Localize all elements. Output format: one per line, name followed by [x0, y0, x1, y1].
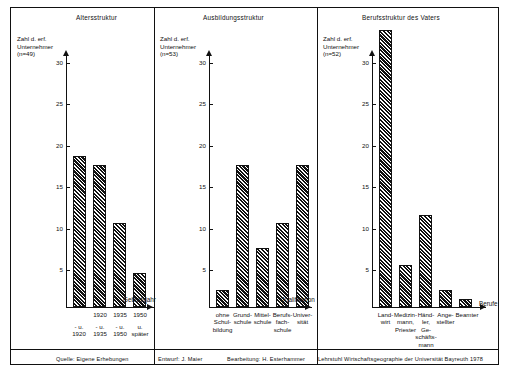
bar-p2-1	[236, 165, 249, 307]
panel-1-tick-20	[67, 146, 70, 147]
panel-1-y-caption-l3: (n=49)	[17, 50, 53, 58]
panel-3-ticklabel-5: 5	[351, 266, 369, 273]
panel-1-y-caption: Zahl d. erf. Unternehmer (n=49)	[17, 35, 53, 58]
panel-2-title: Ausbildungsstruktur	[203, 14, 264, 21]
footer-divider	[11, 349, 498, 350]
footer-institute: Lehrstuhl Wirtschaftsgeographie der Univ…	[318, 356, 483, 362]
bar-p1-1	[93, 165, 106, 307]
bar-p1-0	[73, 156, 86, 307]
panel-2-xlabel-4: Univer- sität	[290, 311, 315, 326]
bar-p3-3	[439, 290, 452, 307]
panel-1-ticklabel-20: 20	[45, 142, 63, 149]
panel-2-ticklabel-15: 15	[188, 183, 206, 190]
panel-3-y-caption-l3: (n=52)	[323, 50, 359, 58]
panel-1-title: Altersstruktur	[76, 14, 117, 21]
panel-2-tick-20	[210, 146, 213, 147]
panel-3-tick-10	[373, 229, 376, 230]
bar-p3-2	[419, 215, 432, 307]
panel-3-xlabel-4: Beamter	[453, 311, 481, 318]
panel-1-tick-5	[67, 270, 70, 271]
panel-2-ticklabel-20: 20	[188, 142, 206, 149]
bar-p3-0	[379, 30, 392, 307]
panel-1-ticklabel-10: 10	[45, 225, 63, 232]
panel-3-ticklabel-10: 10	[351, 225, 369, 232]
panel-berufsstruktur: Berufsstruktur des Vaters Zahl d. erf. U…	[317, 8, 500, 364]
panel-2-tick-5	[210, 270, 213, 271]
bar-p2-3	[276, 223, 289, 307]
panel-2-y-caption: Zahl d. erf. Unternehmer (n=53)	[160, 35, 196, 58]
panel-3-title: Berufsstruktur des Vaters	[362, 14, 440, 21]
panel-2-x-axis-arrow	[305, 304, 311, 310]
panel-3-ticklabel-20: 20	[351, 142, 369, 149]
footer-source: Quelle: Eigene Erhebungen	[56, 356, 128, 362]
panel-2-ticklabel-10: 10	[188, 225, 206, 232]
panel-2-x-axis-name: Qualifikation	[280, 296, 315, 303]
panel-1-tick-15	[67, 187, 70, 188]
panel-2-x-axis	[209, 307, 312, 308]
bar-p1-2	[113, 223, 126, 307]
panel-altersstruktur: Altersstruktur Zahl d. erf. Unternehmer …	[11, 8, 154, 364]
panel-1-x-axis	[66, 307, 154, 308]
panel-3-x-axis	[372, 307, 486, 308]
panel-2-ticklabel-25: 25	[188, 100, 206, 107]
panel-1-ticklabel-25: 25	[45, 100, 63, 107]
panel-1-tick-25	[67, 104, 70, 105]
panel-2-y-caption-l2: Unternehmer	[160, 43, 196, 51]
panel-1-tick-30	[67, 63, 70, 64]
panel-1-xlabel-3: u. später	[127, 323, 153, 338]
panel-2-ticklabel-5: 5	[188, 266, 206, 273]
bar-p3-4	[459, 299, 472, 307]
panel-2-tick-10	[210, 229, 213, 230]
panel-3-y-caption: Zahl d. erf. Unternehmer (n=52)	[323, 35, 359, 58]
bar-p2-0	[216, 290, 229, 307]
panel-3-tick-30	[373, 63, 376, 64]
panel-3-tick-25	[373, 104, 376, 105]
panel-3-y-caption-l1: Zahl d. erf.	[323, 35, 359, 43]
panel-3-x-axis-name: Berufe	[479, 300, 498, 307]
panel-3-tick-15	[373, 187, 376, 188]
panel-1-y-caption-l2: Unternehmer	[17, 43, 53, 51]
panel-3-y-caption-l2: Unternehmer	[323, 43, 359, 51]
bar-p2-4	[296, 165, 309, 307]
panel-1-ticklabel-5: 5	[45, 266, 63, 273]
panel-2-tick-25	[210, 104, 213, 105]
panel-3-ticklabel-30: 30	[351, 59, 369, 66]
panel-2-ticklabel-30: 30	[188, 59, 206, 66]
figure-frame: Altersstruktur Zahl d. erf. Unternehmer …	[10, 7, 499, 365]
panel-1-tick-10	[67, 229, 70, 230]
bar-p3-1	[399, 265, 412, 307]
panel-2-tick-30	[210, 63, 213, 64]
panel-3-tick-20	[373, 146, 376, 147]
panel-1-x-axis-arrow	[147, 304, 153, 310]
panel-1-xlabel-top-3: 1950	[128, 311, 152, 318]
panel-3-ticklabel-15: 15	[351, 183, 369, 190]
panel-ausbildungsstruktur: Ausbildungsstruktur Zahl d. erf. Unterne…	[154, 8, 317, 364]
panel-2-tick-15	[210, 187, 213, 188]
panel-2-y-caption-l3: (n=53)	[160, 50, 196, 58]
panel-2-y-caption-l1: Zahl d. erf.	[160, 35, 196, 43]
panel-3-ticklabel-25: 25	[351, 100, 369, 107]
panel-3-tick-5	[373, 270, 376, 271]
panel-1-x-axis-name: Geburtsjahr	[123, 296, 156, 303]
footer-draft: Entwurf: J. Maier	[158, 356, 203, 362]
bar-p2-2	[256, 248, 269, 307]
panel-1-ticklabel-30: 30	[45, 59, 63, 66]
panel-1-ticklabel-15: 15	[45, 183, 63, 190]
panel-1-y-caption-l1: Zahl d. erf.	[17, 35, 53, 43]
footer-editing: Bearbeitung: H. Esterhammer	[227, 356, 305, 362]
